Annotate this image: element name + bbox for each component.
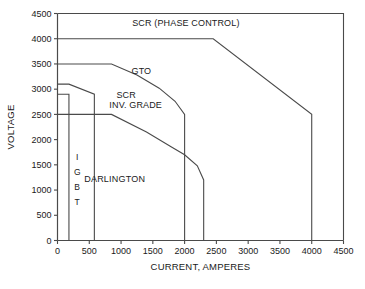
y-tick-label: 500 bbox=[36, 210, 51, 220]
y-tick-label: 4500 bbox=[31, 9, 51, 19]
x-tick-label: 4500 bbox=[333, 246, 353, 256]
igbt-letter-t: T bbox=[75, 197, 80, 207]
curve-label-inv-grade: INV. GRADE bbox=[109, 100, 162, 110]
x-tick-label: 0 bbox=[55, 246, 60, 256]
igbt-letter-g: G bbox=[74, 167, 81, 177]
x-tick-label: 1000 bbox=[111, 246, 131, 256]
series-curve-darlington bbox=[58, 84, 95, 240]
y-tick-label: 1500 bbox=[31, 160, 51, 170]
curve-label-scr-phase-control: SCR (PHASE CONTROL) bbox=[132, 18, 239, 28]
x-tick-label: 1500 bbox=[143, 246, 163, 256]
x-tick-label: 500 bbox=[82, 246, 97, 256]
x-axis-title: CURRENT, AMPERES bbox=[151, 261, 251, 272]
device-capability-chart: 0500100015002000250030003500400045000500… bbox=[0, 0, 365, 289]
curve-label-scr: SCR bbox=[116, 90, 136, 100]
series-curve-igbt bbox=[58, 94, 69, 240]
y-axis-title: VOLTAGE bbox=[5, 105, 16, 150]
chart-figure: 0500100015002000250030003500400045000500… bbox=[0, 0, 365, 289]
curve-label-darlington: DARLINGTON bbox=[84, 174, 145, 184]
y-tick-label: 0 bbox=[46, 236, 51, 246]
igbt-letter-i: I bbox=[76, 152, 78, 162]
y-tick-label: 1000 bbox=[31, 185, 51, 195]
x-tick-label: 3000 bbox=[238, 246, 258, 256]
curve-label-gto: GTO bbox=[131, 66, 151, 76]
x-tick-label: 3500 bbox=[270, 246, 290, 256]
x-tick-label: 2500 bbox=[206, 246, 226, 256]
y-tick-label: 3500 bbox=[31, 59, 51, 69]
x-tick-label: 4000 bbox=[302, 246, 322, 256]
y-tick-label: 3000 bbox=[31, 84, 51, 94]
x-tick-label: 2000 bbox=[175, 246, 195, 256]
y-tick-label: 2000 bbox=[31, 135, 51, 145]
y-tick-label: 2500 bbox=[31, 110, 51, 120]
igbt-letter-b: B bbox=[74, 182, 80, 192]
y-tick-label: 4000 bbox=[31, 34, 51, 44]
plot-frame bbox=[58, 14, 344, 241]
